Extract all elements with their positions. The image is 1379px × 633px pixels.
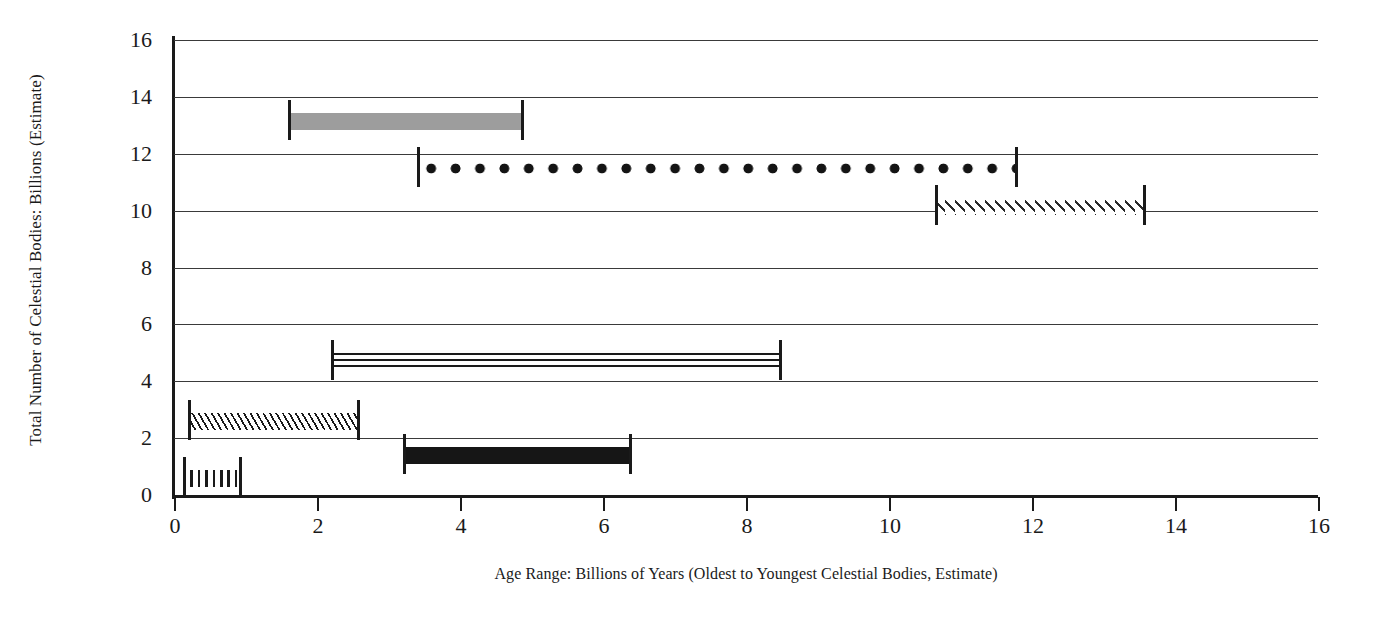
range-bar-cap-right [1143,185,1146,225]
x-tick-mark [1032,497,1034,511]
y-tick-label: 8 [88,257,152,279]
range-bar-cap-left [935,185,938,225]
x-tick-label: 16 [1289,513,1349,539]
y-tick-label: 14 [88,86,152,108]
x-tick-mark [746,497,748,511]
x-tick-label: 12 [1003,513,1063,539]
x-tick-mark [889,497,891,511]
gridline [174,438,1318,439]
gridline [174,211,1318,212]
x-tick-label: 10 [860,513,920,539]
range-bar-band [288,113,524,130]
range-bar [417,160,1018,177]
y-tick-label: 0 [88,484,152,506]
y-tick-label: 6 [88,313,152,335]
x-tick-label: 2 [288,513,348,539]
range-bar-band [331,353,781,370]
x-axis-line [172,495,1318,498]
range-bar-cap-left [188,400,191,440]
range-bar [183,470,242,487]
gridline [174,154,1318,155]
x-tick-mark [460,497,462,511]
range-bar-cap-right [629,434,632,474]
x-tick-mark [1175,497,1177,511]
x-tick-label: 0 [145,513,205,539]
x-tick-label: 6 [574,513,634,539]
gridline [174,268,1318,269]
range-bar [403,447,632,464]
x-tick-label: 14 [1146,513,1206,539]
range-bar-cap-right [239,457,242,497]
range-bar-cap-left [403,434,406,474]
range-bar-cap-right [357,400,360,440]
range-bar-cap-right [779,340,782,380]
range-bar-cap-left [288,100,291,140]
x-tick-mark [1318,497,1320,511]
gridline [174,324,1318,325]
range-bar-cap-right [521,100,524,140]
y-tick-label: 2 [88,427,152,449]
x-tick-mark [603,497,605,511]
range-bar-band [403,447,632,464]
y-tick-label: 10 [88,200,152,222]
range-bar-band [188,413,360,430]
range-bar [188,413,360,430]
range-bar-band [417,160,1018,177]
range-bar [935,198,1146,215]
range-bar-cap-left [331,340,334,380]
x-tick-label: 4 [431,513,491,539]
x-tick-mark [174,497,176,511]
range-bar-cap-right [1015,147,1018,187]
range-bar-band [935,198,1146,215]
y-axis-title: Total Number of Celestial Bodies: Billio… [16,0,56,520]
range-bar [288,113,524,130]
gridline [174,40,1318,41]
plot-area: 0246810121416 0246810121416 [174,40,1318,495]
x-axis-title: Age Range: Billions of Years (Oldest to … [174,565,1318,583]
x-tick-label: 8 [717,513,777,539]
range-bar [331,353,781,370]
chart-canvas: Total Number of Celestial Bodies: Billio… [0,0,1379,633]
range-bar-cap-left [417,147,420,187]
gridline [174,97,1318,98]
x-tick-mark [317,497,319,511]
range-bar-band [183,470,242,487]
range-bar-cap-left [183,457,186,497]
y-tick-label: 16 [88,29,152,51]
gridline [174,381,1318,382]
y-tick-label: 4 [88,370,152,392]
y-tick-label: 12 [88,143,152,165]
